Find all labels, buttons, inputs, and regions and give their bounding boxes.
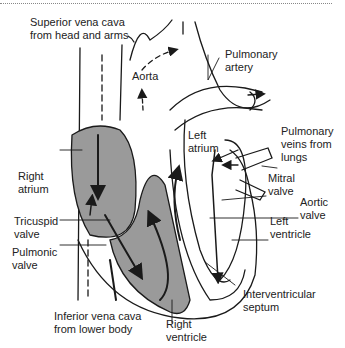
label-right-ventricle: Right ventricle <box>166 318 207 344</box>
label-aorta: Aorta <box>132 70 158 83</box>
label-pulmonary-veins: Pulmonary veins from lungs <box>281 125 334 164</box>
label-left-atrium: Left atrium <box>188 129 219 155</box>
label-left-ventricle: Left ventricle <box>270 215 311 241</box>
label-tricuspid-valve: Tricuspid valve <box>14 215 58 241</box>
label-right-atrium: Right atrium <box>18 170 49 196</box>
label-pulmonic-valve: Pulmonic valve <box>12 246 57 272</box>
label-interventricular-septum: Interventricular septum <box>243 288 316 314</box>
right-atrium-chamber <box>71 126 136 237</box>
label-mitral-valve: Mitral valve <box>268 172 295 198</box>
label-inferior-vena-cava: Inferior vena cava from lower body <box>54 310 141 336</box>
label-pulmonary-artery: Pulmonary artery <box>225 48 278 74</box>
label-superior-vena-cava: Superior vena cava from head and arms <box>30 16 128 42</box>
